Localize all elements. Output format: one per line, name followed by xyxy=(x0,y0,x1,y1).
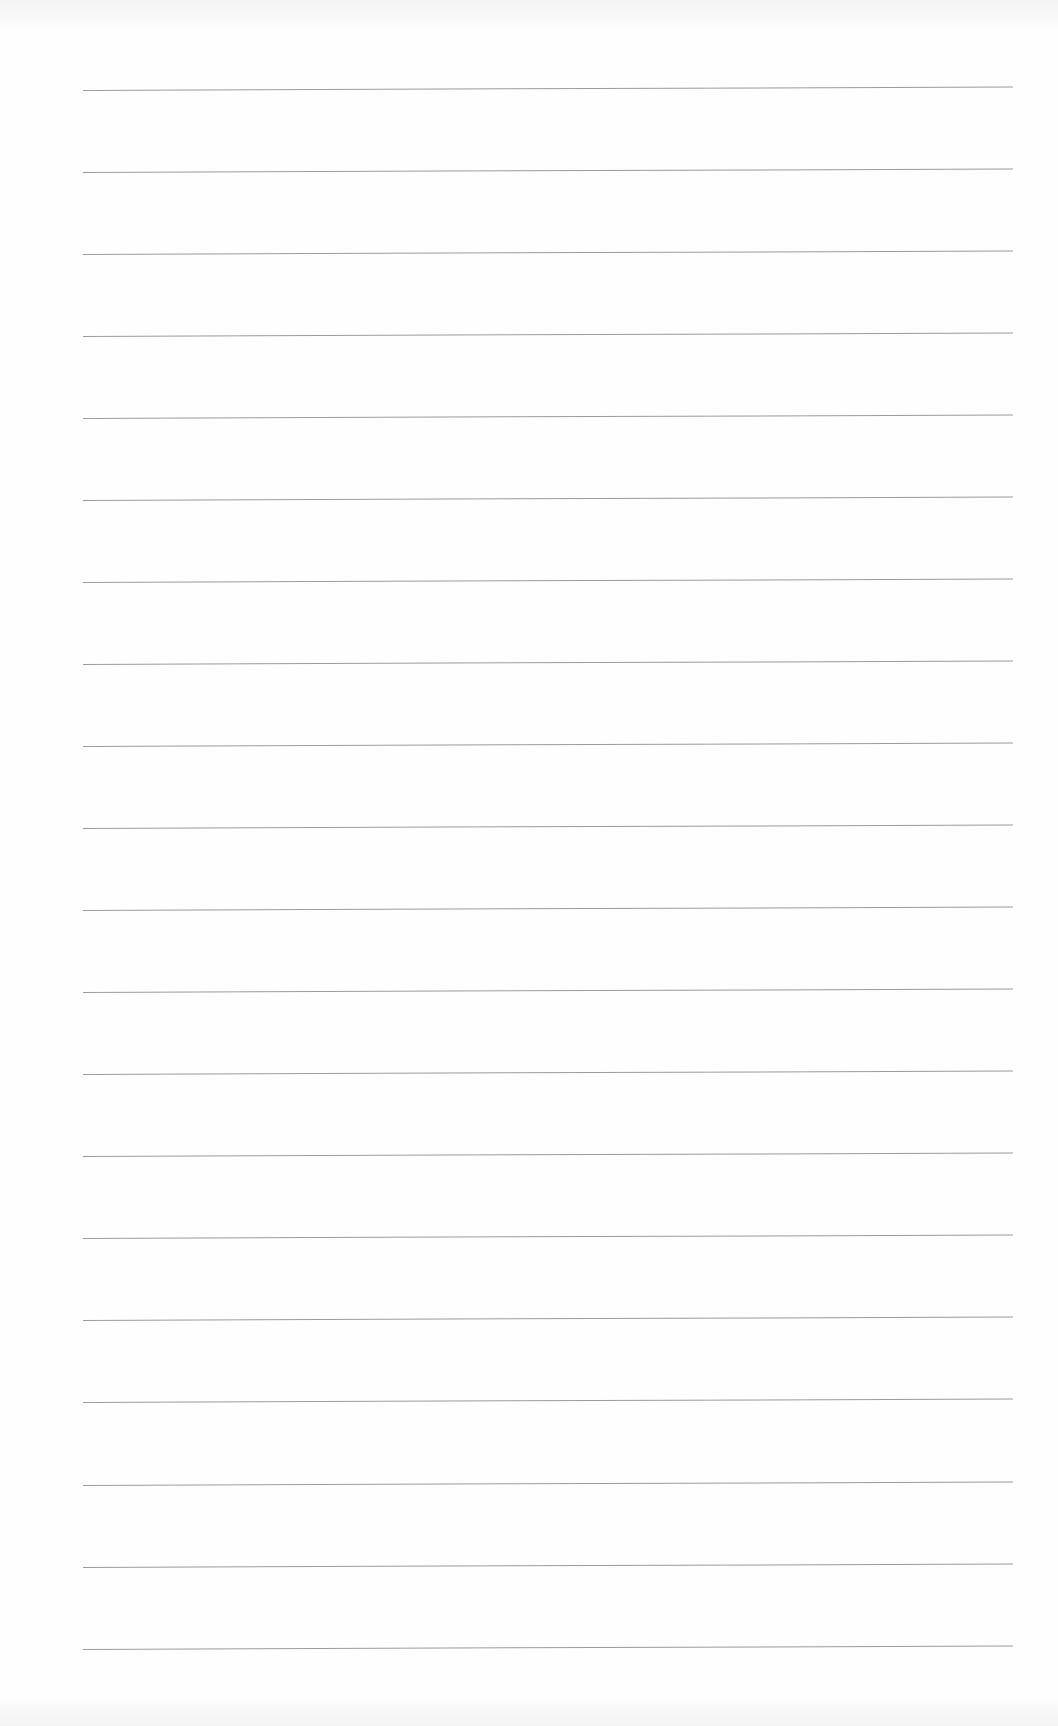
ruled-line xyxy=(83,988,1013,993)
ruled-line xyxy=(83,414,1013,419)
ruled-line xyxy=(83,86,1013,91)
ruled-line xyxy=(83,1563,1013,1568)
ruled-line xyxy=(83,496,1013,501)
ruled-line xyxy=(83,578,1013,583)
ruled-line xyxy=(83,1398,1013,1403)
ruled-line xyxy=(83,1070,1013,1075)
ruled-line xyxy=(83,660,1013,665)
ruled-line xyxy=(83,1152,1013,1157)
ruled-line xyxy=(83,1316,1013,1321)
bottom-edge-shadow xyxy=(0,1696,1058,1726)
ruled-line xyxy=(83,824,1013,829)
ruled-line xyxy=(83,1481,1013,1486)
ruled-line xyxy=(83,332,1013,337)
ruled-line xyxy=(83,906,1013,911)
ruled-line xyxy=(83,1234,1013,1239)
ruled-line xyxy=(83,1645,1013,1650)
top-edge-shadow xyxy=(0,0,1058,30)
ruled-line xyxy=(83,168,1013,173)
ruled-paper-page xyxy=(0,0,1058,1726)
ruled-line xyxy=(83,742,1013,747)
ruled-line xyxy=(83,250,1013,255)
